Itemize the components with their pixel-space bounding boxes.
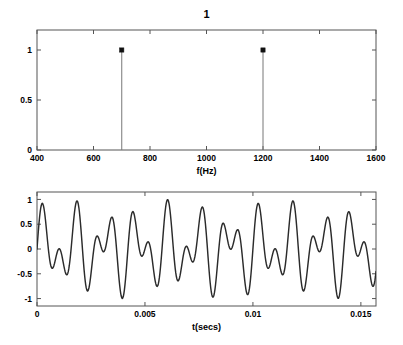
spectrum-xtick-label: 1200 [254,153,273,163]
spectrum-xtick-label: 600 [86,153,100,163]
spectrum-ytick-label: 0.5 [20,95,32,105]
waveform-ytick-label: -0.5 [17,269,32,279]
waveform-xtick-label: 0.01 [245,309,262,319]
spectrum-ytick-label: 0 [27,145,32,155]
spectrum-xtick-label: 400 [30,153,44,163]
waveform-xtick-label: 0.015 [350,309,372,319]
spectrum-xtick-label: 1400 [310,153,329,163]
spectrum-xaxis-title: f(Hz) [197,166,217,176]
spectrum-stem-marker [261,48,265,52]
figure-canvas: 1400600800100012001400160000.51f(Hz)00.0… [0,0,403,345]
waveform-axes-frame [37,192,376,306]
spectrum-xtick-label: 1600 [367,153,386,163]
waveform-ytick-label: 0.5 [20,219,32,229]
spectrum-xtick-label: 800 [143,153,157,163]
spectrum-plot-title: 1 [203,8,209,20]
spectrum-stem-marker [120,48,124,52]
waveform-xtick-label: 0 [35,309,40,319]
waveform-signal-path [37,200,376,299]
waveform-ytick-label: -1 [24,294,32,304]
spectrum-axes-frame [37,30,376,150]
matlab-figure-window: 1400600800100012001400160000.51f(Hz)00.0… [0,0,403,345]
waveform-xtick-label: 0.005 [134,309,156,319]
spectrum-ytick-label: 1 [27,45,32,55]
waveform-ytick-label: 0 [27,244,32,254]
spectrum-xtick-label: 1000 [197,153,216,163]
waveform-ytick-label: 1 [27,195,32,205]
waveform-xaxis-title: t(secs) [192,322,221,332]
